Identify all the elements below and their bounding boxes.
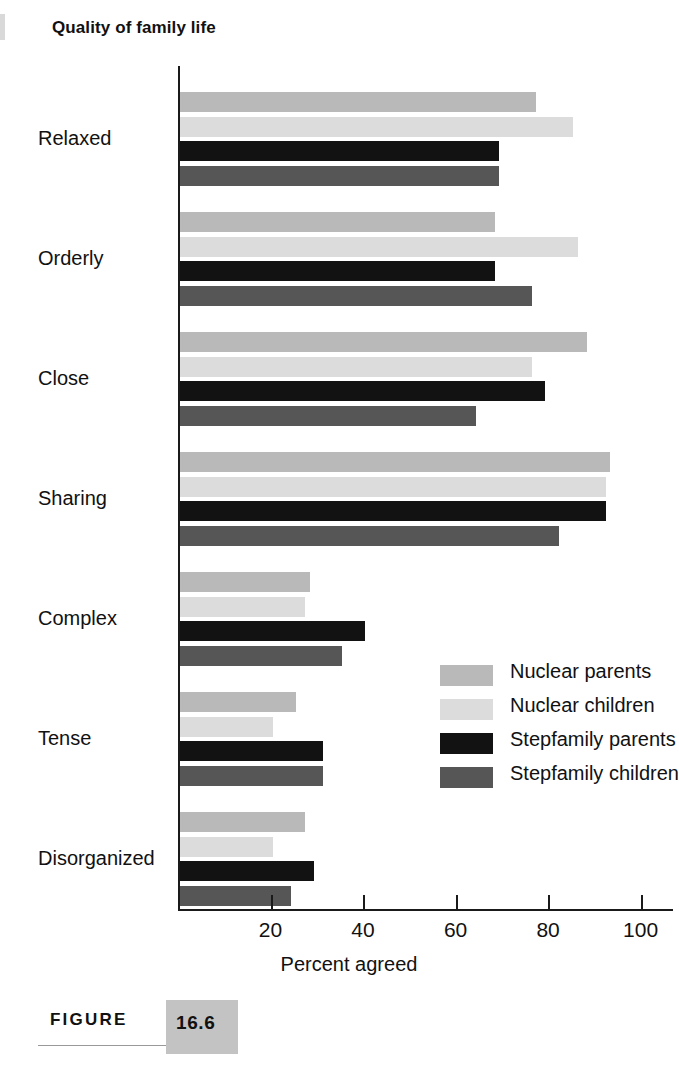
legend-label: Stepfamily parents xyxy=(510,728,676,751)
bar xyxy=(180,406,476,426)
figure-caption: FIGURE 16.6 xyxy=(38,1000,338,1054)
bar xyxy=(180,766,323,786)
chart-title: Quality of family life xyxy=(52,18,216,38)
bar xyxy=(180,332,587,352)
category-label: Orderly xyxy=(38,247,168,270)
bar xyxy=(180,572,310,592)
bar xyxy=(180,837,273,857)
bar xyxy=(180,597,305,617)
x-axis-tick xyxy=(363,895,365,910)
category-label: Relaxed xyxy=(38,127,168,150)
legend-label: Stepfamily children xyxy=(510,762,679,785)
figure-number-label: 16.6 xyxy=(176,1012,215,1034)
bar xyxy=(180,261,495,281)
legend-swatch xyxy=(440,733,493,754)
category-label: Complex xyxy=(38,607,168,630)
bar xyxy=(180,141,499,161)
category-label: Sharing xyxy=(38,487,168,510)
x-axis-tick-label: 40 xyxy=(351,918,374,942)
bar xyxy=(180,621,365,641)
legend-swatch xyxy=(440,699,493,720)
bar xyxy=(180,237,578,257)
bar xyxy=(180,646,342,666)
bar xyxy=(180,692,296,712)
bar xyxy=(180,501,606,521)
x-axis-tick-label: 20 xyxy=(259,918,282,942)
x-axis-line xyxy=(178,909,673,911)
legend-swatch xyxy=(440,767,493,788)
bar xyxy=(180,381,545,401)
bar xyxy=(180,117,573,137)
x-axis-title: Percent agreed xyxy=(281,953,418,976)
bar xyxy=(180,477,606,497)
page-edge-artifact xyxy=(0,14,5,40)
bar xyxy=(180,166,499,186)
x-axis-tick xyxy=(641,895,643,910)
figure-word-label: FIGURE xyxy=(50,1010,127,1030)
category-label: Close xyxy=(38,367,168,390)
x-axis-tick xyxy=(271,895,273,910)
x-axis-tick xyxy=(548,895,550,910)
bar xyxy=(180,886,291,906)
bar xyxy=(180,526,559,546)
bar xyxy=(180,212,495,232)
bar xyxy=(180,92,536,112)
x-axis-tick-label: 80 xyxy=(536,918,559,942)
legend-swatch xyxy=(440,665,493,686)
legend-label: Nuclear children xyxy=(510,694,655,717)
bar xyxy=(180,357,532,377)
bar xyxy=(180,717,273,737)
bar xyxy=(180,812,305,832)
x-axis-tick xyxy=(456,895,458,910)
category-label: Disorganized xyxy=(38,847,168,870)
bar xyxy=(180,861,314,881)
x-axis-tick-label: 100 xyxy=(623,918,658,942)
category-label: Tense xyxy=(38,727,168,750)
bar xyxy=(180,286,532,306)
bar xyxy=(180,452,610,472)
bar xyxy=(180,741,323,761)
x-axis-tick-label: 60 xyxy=(444,918,467,942)
legend-label: Nuclear parents xyxy=(510,660,651,683)
figure-page: Quality of family life 20406080100 Relax… xyxy=(0,0,679,1069)
